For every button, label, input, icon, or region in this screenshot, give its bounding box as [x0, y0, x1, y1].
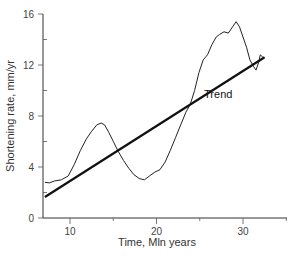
line-chart: 0481216102030 Trend Time, Mln years Shor…: [0, 0, 294, 259]
trend-label: Trend: [204, 88, 232, 100]
plot-area: Trend: [45, 22, 265, 197]
x-tick-label: 10: [64, 226, 76, 237]
y-tick-label: 16: [23, 9, 35, 20]
y-axis-title: Shortening rate, mm/yr: [4, 60, 16, 172]
trend-line: [45, 57, 265, 197]
rate-line: [45, 22, 263, 183]
x-axis-title: Time, Mln years: [118, 236, 196, 248]
y-tick-label: 12: [23, 60, 35, 71]
y-tick-label: 8: [28, 111, 34, 122]
x-tick-label: 30: [237, 226, 249, 237]
y-tick-label: 4: [28, 162, 34, 173]
axes: 0481216102030: [23, 9, 287, 238]
y-tick-label: 0: [28, 213, 34, 224]
